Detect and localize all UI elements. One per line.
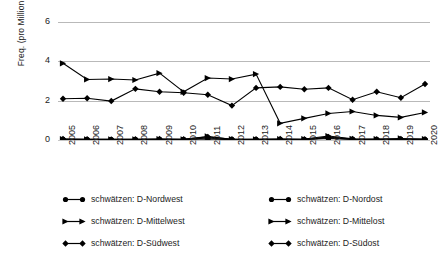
triangle-right-marker <box>62 216 86 227</box>
diamond-marker <box>84 95 90 101</box>
triangle-right-marker <box>301 115 307 121</box>
y-tick-2: 2 <box>32 95 50 105</box>
triangle-right-marker <box>374 112 380 118</box>
triangle-right-marker <box>398 114 404 120</box>
series-schw-tzen-d-s-dwest <box>60 81 428 109</box>
circle-marker <box>62 194 86 205</box>
circle-marker <box>269 197 274 202</box>
x-tick-2009: 2009 <box>164 125 174 145</box>
triangle-right-marker <box>205 75 211 81</box>
plot-area <box>58 22 430 140</box>
legend-item-label: schwätzen: D-Südwest <box>91 238 179 249</box>
diamond-marker <box>301 86 307 92</box>
diamond-marker <box>268 240 274 246</box>
diamond-marker <box>268 238 292 249</box>
triangle-right-marker <box>84 76 90 82</box>
diamond-marker <box>132 86 138 92</box>
line-chart: Freq. (pro Million Tokens) 0246 20052006… <box>0 0 447 262</box>
triangle-right-marker <box>62 218 68 224</box>
x-tick-2017: 2017 <box>357 125 367 145</box>
triangle-right-marker <box>229 76 235 82</box>
triangle-right-marker <box>285 218 291 224</box>
x-tick-2018: 2018 <box>381 125 391 145</box>
triangle-right-marker <box>268 216 292 227</box>
circle-marker <box>286 197 291 202</box>
legend-item[interactable]: schwätzen: D-Nordost <box>268 194 382 205</box>
diamond-marker <box>349 96 355 102</box>
diamond-marker <box>325 85 331 91</box>
legend-item-label: schwätzen: D-Nordwest <box>91 194 183 205</box>
x-tick-2020: 2020 <box>429 125 439 145</box>
diamond-marker <box>108 98 114 104</box>
diamond-marker <box>62 238 86 249</box>
y-tick-0: 0 <box>32 134 50 144</box>
x-tick-2015: 2015 <box>308 125 318 145</box>
triangle-right-marker <box>350 108 356 114</box>
series-lines <box>58 22 430 140</box>
legend-item[interactable]: schwätzen: D-Mittelost <box>268 216 384 227</box>
triangle-right-marker <box>268 218 274 224</box>
x-tick-2016: 2016 <box>332 125 342 145</box>
x-tick-2014: 2014 <box>284 125 294 145</box>
x-tick-2008: 2008 <box>139 125 149 145</box>
triangle-right-marker <box>79 218 85 224</box>
triangle-right-marker <box>422 109 428 115</box>
diamond-marker <box>156 89 162 95</box>
legend-item[interactable]: schwätzen: D-Nordwest <box>62 194 183 205</box>
legend-item[interactable]: schwätzen: D-Südwest <box>62 238 179 249</box>
diamond-marker <box>62 240 68 246</box>
triangle-right-marker <box>277 120 283 126</box>
circle-marker <box>80 197 85 202</box>
legend-item-label: schwätzen: D-Mittelwest <box>91 216 185 227</box>
legend-item[interactable]: schwätzen: D-Südost <box>268 238 379 249</box>
x-tick-2010: 2010 <box>188 125 198 145</box>
triangle-right-marker <box>253 71 259 77</box>
chart-legend: schwätzen: D-Nordwestschwätzen: D-Mittel… <box>0 190 447 262</box>
x-tick-2007: 2007 <box>115 125 125 145</box>
y-tick-6: 6 <box>32 16 50 26</box>
triangle-right-marker <box>325 110 331 116</box>
circle-marker <box>63 197 68 202</box>
diamond-marker <box>285 240 291 246</box>
x-tick-2019: 2019 <box>405 125 415 145</box>
legend-item[interactable]: schwätzen: D-Mittelwest <box>62 216 185 227</box>
diamond-marker <box>422 81 428 87</box>
legend-item-label: schwätzen: D-Nordost <box>297 194 382 205</box>
diamond-marker <box>374 89 380 95</box>
legend-item-label: schwätzen: D-Südost <box>297 238 379 249</box>
x-tick-2005: 2005 <box>67 125 77 145</box>
triangle-right-marker <box>132 77 138 83</box>
y-axis-title: Freq. (pro Million Tokens) <box>16 0 30 82</box>
x-tick-2011: 2011 <box>212 126 222 145</box>
diamond-marker <box>277 84 283 90</box>
triangle-right-marker <box>60 60 66 66</box>
diamond-marker <box>60 96 66 102</box>
diamond-marker <box>205 92 211 98</box>
series-line <box>63 84 425 106</box>
x-tick-2013: 2013 <box>260 125 270 145</box>
diamond-marker <box>79 240 85 246</box>
legend-item-label: schwätzen: D-Mittelost <box>297 216 384 227</box>
x-tick-2012: 2012 <box>236 125 246 145</box>
triangle-right-marker <box>108 76 114 82</box>
circle-marker <box>268 194 292 205</box>
y-tick-4: 4 <box>32 55 50 65</box>
x-tick-2006: 2006 <box>91 125 101 145</box>
diamond-marker <box>398 95 404 101</box>
